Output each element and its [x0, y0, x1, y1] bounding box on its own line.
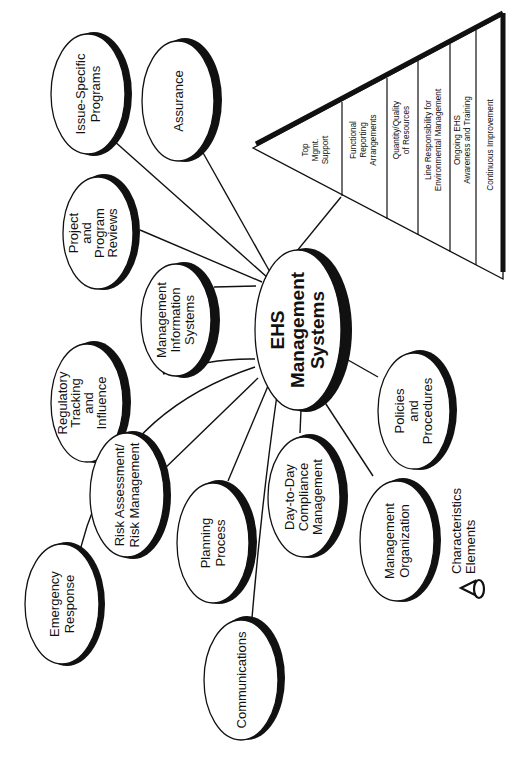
ehs-management-systems-diagram: Top Mgmt. Support Functional Reporting A…: [0, 0, 510, 776]
svg-text:Systems: Systems: [307, 291, 328, 369]
svg-text:Continuous Improvement: Continuous Improvement: [486, 99, 495, 191]
element-management-organization: Management Organization: [360, 478, 441, 602]
element-management-information-systems: Management Information Systems: [141, 262, 220, 378]
svg-text:Planning: Planning: [198, 518, 213, 569]
legend: Characteristics Elements: [449, 488, 484, 598]
characteristic-quantity-quality-resources: Quantity/Quality of Resources: [392, 100, 411, 159]
svg-text:Organization: Organization: [397, 504, 412, 578]
svg-text:Information: Information: [168, 287, 183, 352]
svg-text:Mgmt.: Mgmt.: [311, 139, 320, 162]
svg-text:Response: Response: [62, 575, 77, 634]
element-day-to-day-compliance: Day-to-Day Compliance Management: [268, 434, 348, 558]
element-policies-procedures: Policies and Procedures: [378, 350, 457, 470]
svg-text:Communications: Communications: [234, 631, 249, 728]
svg-text:Day-to-Day: Day-to-Day: [282, 464, 297, 530]
svg-text:Reporting: Reporting: [359, 122, 368, 158]
svg-text:Management: Management: [154, 282, 169, 358]
svg-text:Awareness and Training: Awareness and Training: [463, 96, 472, 184]
svg-text:Policies: Policies: [392, 388, 407, 433]
svg-text:Functional: Functional: [349, 121, 358, 159]
svg-text:Process: Process: [213, 519, 228, 566]
triangle-legend-icon: [461, 581, 475, 595]
svg-text:Risk Assessment/: Risk Assessment/: [112, 443, 127, 546]
svg-text:Programs: Programs: [88, 65, 103, 122]
svg-text:Quantity/Quality: Quantity/Quality: [392, 100, 401, 159]
svg-text:Ongoing EHS: Ongoing EHS: [453, 114, 462, 165]
svg-text:Environmental Management: Environmental Management: [434, 88, 443, 191]
svg-text:Systems: Systems: [182, 295, 197, 345]
legend-characteristics-label: Characteristics: [449, 488, 464, 574]
svg-text:Reviews: Reviews: [105, 208, 120, 258]
svg-text:Procedures: Procedures: [420, 377, 435, 444]
svg-text:Management: Management: [287, 271, 308, 388]
characteristics-triangle: Top Mgmt. Support Functional Reporting A…: [253, 13, 503, 279]
svg-text:Assurance: Assurance: [171, 70, 186, 131]
svg-text:EHS: EHS: [267, 310, 288, 349]
center-node-ehs-management-systems: EHS Management Systems: [255, 248, 352, 412]
svg-text:Line Responsibility for: Line Responsibility for: [424, 100, 433, 180]
svg-text:Support: Support: [321, 135, 330, 164]
svg-text:Compliance: Compliance: [296, 463, 311, 532]
legend-elements-label: Elements: [463, 519, 478, 574]
element-communications: Communications: [204, 616, 285, 740]
element-risk-assessment: Risk Assessment/ Risk Management: [90, 431, 171, 559]
svg-text:Influence: Influence: [94, 377, 109, 430]
element-emergency-response: Emergency Response: [25, 542, 105, 666]
svg-text:Arrangements: Arrangements: [369, 114, 378, 165]
svg-text:of Resources: of Resources: [402, 106, 411, 154]
svg-text:Emergency: Emergency: [47, 571, 62, 637]
element-project-program-reviews: Project and Program Reviews: [63, 174, 140, 290]
svg-text:Risk Management: Risk Management: [127, 442, 142, 547]
element-planning-process: Planning Process: [177, 480, 257, 604]
element-assurance: Assurance: [142, 38, 222, 162]
svg-text:Issue-Specific: Issue-Specific: [73, 53, 88, 134]
characteristic-line-responsibility: Line Responsibility for Environmental Ma…: [424, 88, 443, 191]
element-issue-specific-programs: Issue-Specific Programs: [51, 32, 132, 156]
svg-text:and: and: [406, 400, 421, 422]
characteristic-continuous-improvement: Continuous Improvement: [486, 99, 495, 191]
svg-text:Top: Top: [301, 143, 310, 157]
svg-text:Management: Management: [310, 459, 325, 535]
ellipse-legend-icon: [474, 580, 484, 598]
svg-text:Management: Management: [382, 503, 397, 579]
